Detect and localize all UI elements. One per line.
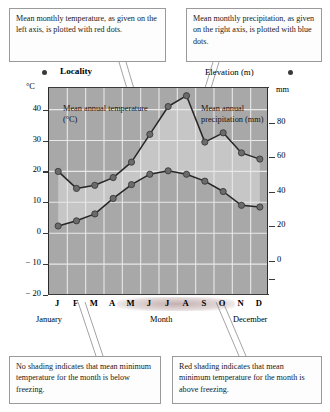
right-axis-tick-label: 0 — [277, 255, 303, 264]
left-axis-unit: °C — [26, 82, 35, 91]
callout-temperature: Mean monthly temperature, as given on th… — [9, 8, 166, 62]
caption-january: January — [36, 315, 62, 324]
caption-december: December — [233, 315, 267, 324]
left-axis-tick-label: 20 — [17, 165, 41, 174]
month-label-january: J — [50, 298, 64, 308]
left-axis-tick-mark — [43, 171, 48, 172]
right-axis-unit: mm — [276, 85, 289, 94]
month-label-november: N — [234, 298, 248, 308]
left-axis-tick-label: 40 — [17, 104, 41, 113]
month-label-march: M — [87, 298, 101, 308]
month-label-september: S — [197, 298, 211, 308]
locality-label: Locality — [60, 66, 92, 76]
month-label-row: JFMAMJJASOND — [48, 298, 268, 311]
right-axis-tick-label: 80 — [277, 117, 303, 126]
right-axis-tick-mark — [269, 261, 275, 262]
annotation-temperature: Mean annual temperature (°C) — [63, 104, 155, 125]
month-label-july: J — [160, 298, 174, 308]
plot-bottom-rule — [48, 294, 269, 295]
caption-month: Month — [150, 315, 172, 324]
callout-no-shading: No shading indicates that mean minimum t… — [9, 356, 161, 404]
right-axis-tick-label: 20 — [277, 220, 303, 229]
left-axis-tick-label: 0 — [17, 227, 41, 236]
month-label-may: M — [124, 298, 138, 308]
annotation-precipitation: Mean annual precipitation (mm) — [201, 104, 268, 125]
callout-precipitation: Mean monthly precipitation, as given on … — [186, 8, 322, 62]
right-axis-tick-mark — [269, 226, 275, 227]
left-axis-tick-mark — [43, 295, 48, 296]
left-axis-tick-label: 10 — [17, 196, 41, 205]
left-axis-tick-mark — [43, 141, 48, 142]
left-axis-tick-mark — [43, 264, 48, 265]
left-axis-tick-mark — [43, 110, 48, 111]
left-axis-tick-label: − 20 — [17, 289, 41, 298]
right-axis-tick-label: 40 — [277, 186, 303, 195]
left-axis-tick-mark — [43, 233, 48, 234]
right-axis-tick-mark — [269, 279, 275, 280]
right-axis-tick-mark — [269, 192, 275, 193]
month-label-august: A — [179, 298, 193, 308]
month-label-april: A — [105, 298, 119, 308]
left-axis-tick-label: 30 — [17, 135, 41, 144]
month-label-december: D — [252, 298, 266, 308]
right-axis-tick-mark — [269, 157, 275, 158]
right-axis-tick-mark — [269, 123, 275, 124]
climate-chart: Locality Elevation (m) °C mm Mean annual… — [0, 66, 330, 326]
month-label-february: F — [69, 298, 83, 308]
right-axis-tick-label: 60 — [277, 151, 303, 160]
month-label-october: O — [215, 298, 229, 308]
blue-dot-icon — [288, 70, 293, 75]
plot-svg: Mean annual temperature (°C)Mean annual … — [49, 88, 268, 295]
left-axis-tick-label: − 10 — [17, 258, 41, 267]
elevation-label: Elevation (m) — [205, 67, 254, 77]
callout-red-shading: Red shading indicates that mean minimum … — [172, 356, 322, 404]
climate-graph-figure: Mean monthly temperature, as given on th… — [0, 0, 330, 412]
red-dot-icon — [42, 70, 47, 75]
plot-area: Mean annual temperature (°C)Mean annual … — [48, 88, 268, 295]
left-axis-tick-mark — [43, 202, 48, 203]
month-label-june: J — [142, 298, 156, 308]
